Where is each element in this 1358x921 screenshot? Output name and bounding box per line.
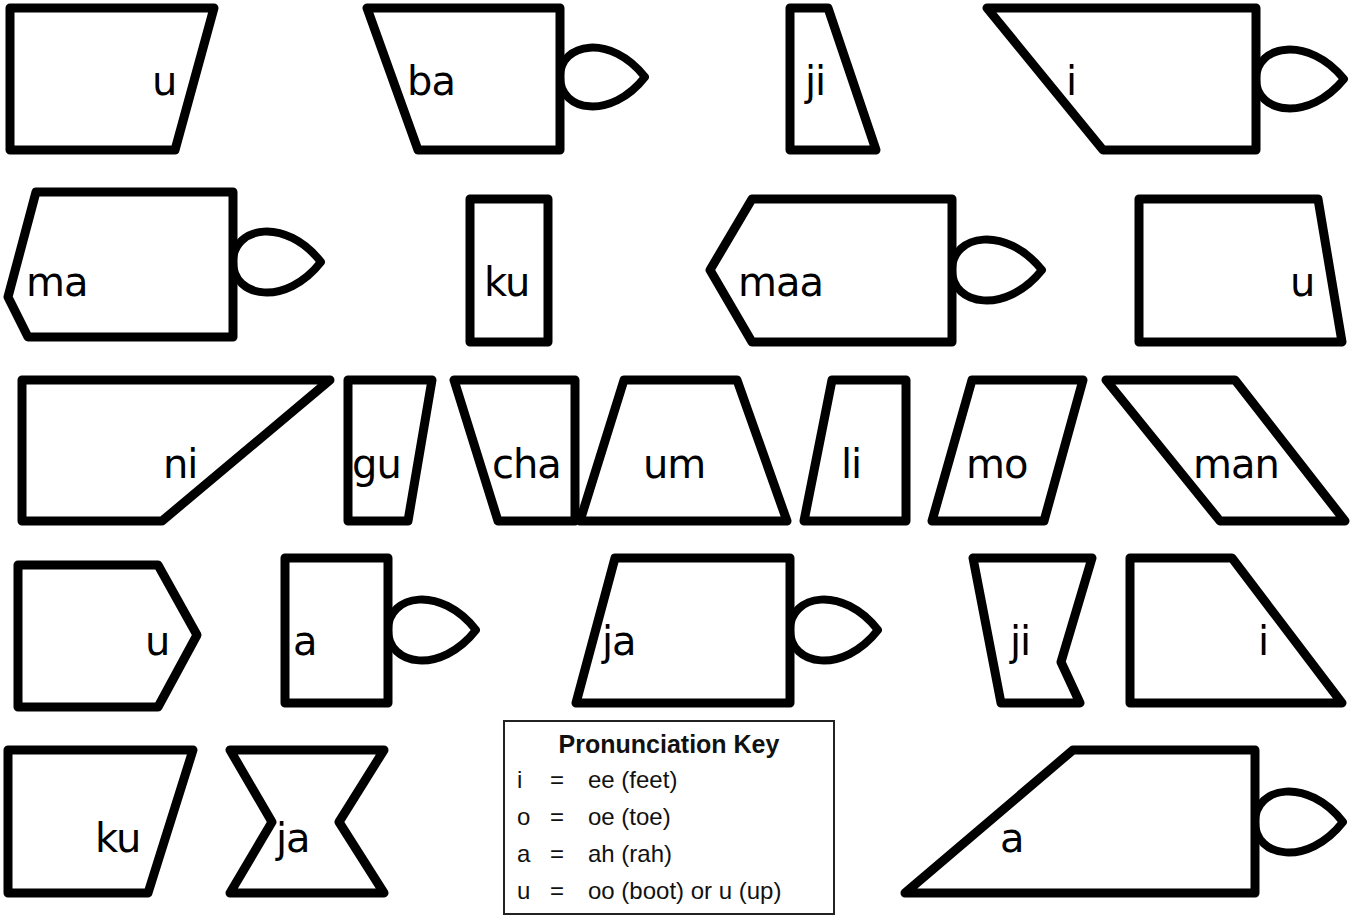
syllable-label: ni: [163, 441, 197, 487]
syllable-label: ji: [1009, 618, 1030, 664]
piece-outline: [18, 565, 197, 707]
puzzle-piece-r2-ku[interactable]: ku: [470, 199, 548, 342]
puzzle-piece-r1-ba[interactable]: ba: [367, 8, 645, 150]
pronunciation-key: Pronunciation Key i = ee (feet) o = oe (…: [503, 720, 835, 915]
puzzle-piece-r3-man[interactable]: man: [1106, 380, 1345, 521]
puzzle-piece-r4-u[interactable]: u: [18, 565, 197, 707]
puzzle-piece-r1-i[interactable]: i: [987, 8, 1344, 150]
syllable-label: man: [1193, 441, 1279, 487]
key-row-u: u = oo (boot) or u (up): [505, 872, 833, 909]
syllable-label: u: [145, 618, 169, 664]
pronunciation-key-title: Pronunciation Key: [505, 730, 833, 759]
syllable-label: a: [293, 618, 317, 664]
key-letter: o: [517, 798, 550, 835]
key-row-o: o = oe (toe): [505, 798, 833, 835]
key-letter: a: [517, 835, 550, 872]
connector-tab-icon: [1255, 792, 1343, 853]
key-equals: =: [550, 761, 588, 798]
puzzle-piece-r2-u[interactable]: u: [1139, 199, 1342, 342]
connector-tab-icon: [233, 232, 321, 293]
syllable-label: ba: [407, 58, 455, 104]
key-equals: =: [550, 835, 588, 872]
syllable-label: i: [1258, 618, 1268, 664]
piece-outline: [790, 8, 876, 150]
key-letter: i: [517, 761, 550, 798]
puzzle-piece-r5-a[interactable]: a: [905, 750, 1343, 893]
syllable-label: maa: [738, 259, 823, 305]
connector-tab-icon: [388, 600, 476, 661]
syllable-label: ma: [26, 259, 87, 305]
puzzle-piece-r2-maa[interactable]: maa: [710, 199, 1042, 342]
puzzle-piece-r4-ji[interactable]: ji: [973, 558, 1092, 703]
connector-tab-icon: [1256, 50, 1344, 109]
syllable-label: ku: [484, 259, 529, 305]
connector-tab-icon: [952, 240, 1042, 301]
puzzle-piece-r5-ku[interactable]: ku: [8, 750, 193, 893]
syllable-label: um: [643, 441, 705, 487]
puzzle-piece-r4-a[interactable]: a: [285, 558, 476, 703]
puzzle-piece-r3-cha[interactable]: cha: [454, 380, 575, 521]
puzzle-piece-r3-um[interactable]: um: [580, 380, 787, 521]
key-sound: ee (feet): [588, 761, 677, 798]
syllable-label: a: [1000, 815, 1024, 861]
piece-outline: [1130, 558, 1342, 703]
syllable-label: ja: [601, 618, 636, 664]
key-row-a: a = ah (rah): [505, 835, 833, 872]
syllable-label: ku: [95, 815, 140, 861]
connector-tab-icon: [790, 600, 878, 661]
syllable-label: i: [1066, 58, 1076, 104]
puzzle-piece-r2-ma[interactable]: ma: [8, 192, 321, 337]
connector-tab-icon: [560, 48, 645, 107]
piece-outline: [10, 8, 214, 150]
syllable-label: cha: [492, 441, 561, 487]
piece-outline: [973, 558, 1092, 703]
key-sound: oo (boot) or u (up): [588, 872, 781, 909]
key-letter: u: [517, 872, 550, 909]
key-equals: =: [550, 872, 588, 909]
syllable-label: u: [1290, 259, 1314, 305]
syllable-label: li: [841, 441, 861, 487]
piece-outline: [987, 8, 1256, 150]
syllable-label: gu: [352, 441, 401, 487]
puzzle-piece-r3-li[interactable]: li: [804, 380, 906, 521]
syllable-label: u: [152, 58, 176, 104]
syllable-label: mo: [966, 441, 1027, 487]
puzzle-piece-r3-gu[interactable]: gu: [348, 380, 432, 521]
puzzle-piece-r5-ja[interactable]: ja: [230, 750, 384, 893]
key-equals: =: [550, 798, 588, 835]
piece-outline: [367, 8, 560, 150]
puzzle-piece-r4-ja[interactable]: ja: [576, 558, 878, 703]
syllable-label: ji: [804, 58, 825, 104]
puzzle-piece-r1-u[interactable]: u: [10, 8, 214, 150]
key-sound: oe (toe): [588, 798, 671, 835]
piece-outline: [905, 750, 1255, 893]
key-sound: ah (rah): [588, 835, 672, 872]
syllable-label: ja: [275, 815, 310, 861]
puzzle-piece-r1-ji[interactable]: ji: [790, 8, 876, 150]
key-row-i: i = ee (feet): [505, 761, 833, 798]
puzzle-piece-r3-mo[interactable]: mo: [932, 380, 1083, 521]
puzzle-piece-r3-ni[interactable]: ni: [22, 380, 330, 521]
puzzle-piece-r4-i[interactable]: i: [1130, 558, 1342, 703]
